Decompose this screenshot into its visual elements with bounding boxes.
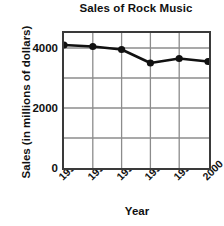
data-point-1996 (89, 43, 96, 50)
vertical-gridlines (93, 33, 179, 168)
chart-figure: Sales of Rock Music Sales (in millions o… (0, 0, 224, 226)
data-point-1999 (176, 55, 183, 62)
data-point-1998 (147, 59, 154, 66)
data-plot (64, 33, 209, 168)
data-point-2000 (204, 58, 209, 65)
horizontal-gridlines (64, 48, 209, 138)
data-point-1997 (118, 46, 125, 53)
plot-area (62, 31, 211, 170)
